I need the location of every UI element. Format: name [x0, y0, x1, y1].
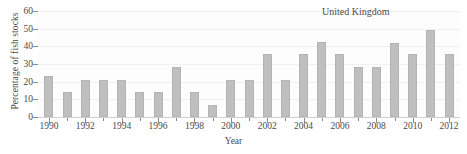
y-tick-label-0: 0	[0, 112, 33, 122]
bar-2008	[372, 67, 381, 117]
x-tick-mark-1995	[140, 118, 141, 121]
x-tick-mark-1997	[176, 118, 177, 121]
bar-1993	[99, 80, 108, 117]
y-tick-mark-10	[33, 99, 38, 100]
bar-2012	[445, 54, 454, 117]
x-tick-label-2012: 2012	[440, 121, 459, 131]
y-tick-mark-20	[33, 82, 38, 83]
bar-2004	[299, 54, 308, 117]
x-tick-label-2000: 2000	[221, 121, 240, 131]
bar-1999	[208, 105, 217, 117]
bar-2005	[317, 42, 326, 117]
bar-2001	[245, 80, 254, 117]
bar-1992	[81, 80, 90, 117]
y-tick-mark-40	[33, 46, 38, 47]
bar-2002	[263, 54, 272, 117]
plot-area	[38, 11, 460, 117]
x-tick-label-1992: 1992	[76, 121, 95, 131]
bar-2011	[426, 30, 435, 117]
x-tick-mark-2009	[395, 118, 396, 121]
bar-2000	[226, 80, 235, 117]
x-tick-label-1996: 1996	[149, 121, 168, 131]
y-tick-mark-50	[33, 29, 38, 30]
y-tick-label-20: 20	[0, 77, 33, 87]
bar-2010	[408, 54, 417, 117]
gridline-y-50	[38, 29, 460, 30]
x-tick-label-1994: 1994	[112, 121, 131, 131]
x-tick-mark-2007	[358, 118, 359, 121]
x-tick-label-2010: 2010	[403, 121, 422, 131]
x-tick-label-1998: 1998	[185, 121, 204, 131]
x-tick-mark-1991	[67, 118, 68, 121]
x-tick-mark-2001	[249, 118, 250, 121]
bar-1998	[190, 92, 199, 117]
x-tick-label-2008: 2008	[367, 121, 386, 131]
y-tick-label-40: 40	[0, 41, 33, 51]
bar-1996	[154, 92, 163, 117]
chart-figure: Percentage of fish stocks 0102030405060 …	[0, 0, 467, 154]
x-tick-mark-2005	[322, 118, 323, 121]
bar-2003	[281, 80, 290, 117]
x-tick-label-1990: 1990	[39, 121, 58, 131]
bar-2006	[335, 54, 344, 117]
y-tick-mark-30	[33, 64, 38, 65]
y-tick-mark-60	[33, 11, 38, 12]
x-tick-label-2006: 2006	[330, 121, 349, 131]
y-axis-tick-labels: 0102030405060	[0, 0, 33, 154]
bar-1995	[135, 92, 144, 117]
bar-2007	[354, 67, 363, 117]
bar-1991	[63, 92, 72, 117]
y-tick-label-30: 30	[0, 59, 33, 69]
x-tick-mark-1993	[103, 118, 104, 121]
bar-1990	[44, 76, 53, 117]
bar-1994	[117, 80, 126, 117]
x-axis-title: Year	[0, 136, 467, 146]
bar-1997	[172, 67, 181, 117]
bar-2009	[390, 43, 399, 117]
x-tick-mark-2011	[431, 118, 432, 121]
x-tick-label-2004: 2004	[294, 121, 313, 131]
x-tick-mark-2003	[285, 118, 286, 121]
y-tick-label-50: 50	[0, 24, 33, 34]
x-tick-label-2002: 2002	[258, 121, 277, 131]
gridline-y-60	[38, 11, 460, 12]
chart-annotation-label: United Kingdom	[322, 6, 390, 17]
x-tick-mark-1999	[213, 118, 214, 121]
y-tick-label-10: 10	[0, 94, 33, 104]
y-tick-mark-0	[33, 117, 38, 118]
y-tick-label-60: 60	[0, 6, 33, 16]
